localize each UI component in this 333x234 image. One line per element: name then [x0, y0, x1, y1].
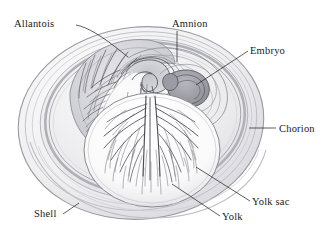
- egg-diagram-figure: Allantois Amnion Embryo Chorion Yolk sac…: [0, 0, 333, 234]
- embryo-head: [163, 73, 178, 90]
- label-chorion: Chorion: [279, 123, 315, 134]
- label-amnion: Amnion: [172, 18, 208, 29]
- label-shell: Shell: [34, 208, 57, 219]
- yolk-sac-sphere: [84, 93, 220, 207]
- label-yolk-sac: Yolk sac: [252, 196, 290, 207]
- label-embryo: Embryo: [250, 45, 285, 56]
- label-allantois: Allantois: [14, 18, 54, 29]
- egg-diagram-svg: Allantois Amnion Embryo Chorion Yolk sac…: [0, 0, 333, 234]
- label-yolk: Yolk: [222, 211, 243, 222]
- yolk-sac-group: [84, 93, 220, 207]
